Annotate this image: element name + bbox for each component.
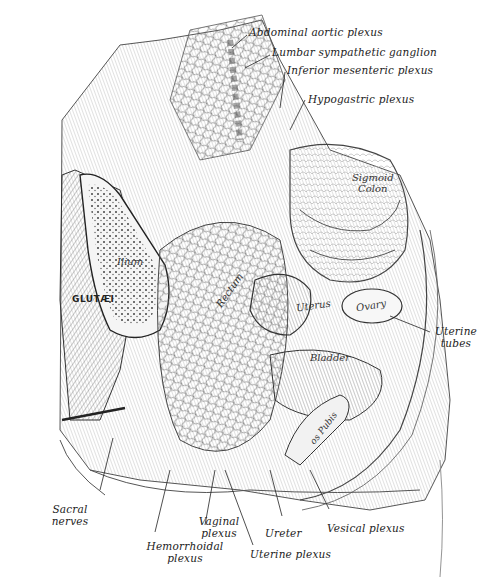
- label-inferior-mesenteric-plexus: Inferior mesenteric plexus: [287, 64, 433, 76]
- label-bladder: Bladder: [310, 352, 350, 363]
- label-sigmoid-colon: Sigmoid Colon: [352, 172, 394, 194]
- label-uterine-tubes: Uterine tubes: [432, 325, 480, 349]
- label-abdominal-aortic-plexus: Abdominal aortic plexus: [249, 26, 383, 38]
- label-uterine-plexus: Uterine plexus: [250, 548, 331, 560]
- label-glutaei: GLUTÆI: [72, 294, 114, 304]
- label-hypogastric-plexus: Hypogastric plexus: [308, 93, 414, 105]
- pelvis-illustration: [0, 0, 495, 577]
- rectum-plexus-region: [158, 222, 289, 451]
- label-vesical-plexus: Vesical plexus: [327, 522, 405, 534]
- label-hemorrhoidal-plexus: Hemorrhoidal plexus: [145, 540, 225, 564]
- label-ureter: Ureter: [265, 527, 302, 539]
- label-vaginal-plexus: Vaginal plexus: [194, 515, 244, 539]
- anatomy-figure: Abdominal aortic plexus Lumbar sympathet…: [0, 0, 495, 577]
- label-sacral-nerves: Sacral nerves: [48, 503, 92, 527]
- label-ilium: Ilium: [117, 256, 143, 267]
- label-lumbar-sympathetic-ganglion: Lumbar sympathetic ganglion: [272, 46, 437, 58]
- sigmoid-colon: [290, 144, 408, 282]
